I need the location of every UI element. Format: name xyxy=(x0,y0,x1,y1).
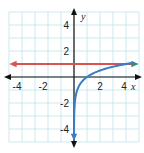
y-axis-up-arrow-icon xyxy=(71,8,77,15)
y-tick-label: 4 xyxy=(63,20,69,31)
y-tick-label: -2 xyxy=(60,98,69,109)
x-axis-left-arrow-icon xyxy=(4,74,11,80)
y-tick-label: 2 xyxy=(63,46,69,57)
line-right-arrow-icon xyxy=(131,61,138,67)
x-axis-label: x xyxy=(130,81,136,92)
x-tick-label: 2 xyxy=(97,81,103,92)
x-axis-right-arrow-icon xyxy=(135,74,142,80)
y-axis-label: y xyxy=(80,11,86,22)
y-axis-down-arrow-icon xyxy=(71,141,77,148)
curve-down-arrow-icon xyxy=(71,134,77,141)
x-tick-label: -2 xyxy=(39,81,48,92)
y-tick-label: -4 xyxy=(60,124,69,135)
line-left-arrow-icon xyxy=(10,61,17,67)
log-curve xyxy=(74,63,134,133)
coordinate-plane: -4 -2 2 4 4 2 -2 -4 y x xyxy=(0,0,144,153)
x-tick-label: 4 xyxy=(121,81,127,92)
axes xyxy=(4,8,142,148)
x-tick-label: -4 xyxy=(13,81,22,92)
